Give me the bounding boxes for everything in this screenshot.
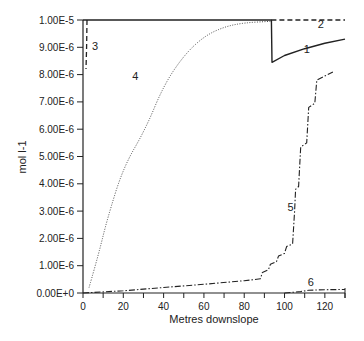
x-tick-label: 120 [317,301,334,312]
curve-label-2: 2 [318,18,324,30]
y-tick-label: 6.00E-6 [39,124,74,135]
y-tick-labels: 0.00E+01.00E-62.00E-63.00E-64.00E-65.00E… [36,15,74,299]
series-lines [83,20,345,293]
curve-label-1: 1 [304,43,310,55]
x-tick-label: 100 [276,301,293,312]
axes [77,20,345,298]
y-tick-label: 5.00E-6 [39,151,74,162]
series-line-3 [86,20,87,69]
curve-label-3: 3 [92,40,98,52]
curve-label-5: 5 [288,201,294,213]
y-tick-label: 2.00E-6 [39,233,74,244]
y-tick-label: 8.00E-6 [39,69,74,80]
y-tick-label: 0.00E+0 [36,288,74,299]
x-tick-labels: 020406080100120 [80,301,333,312]
x-axis-title: Metres downslope [169,313,258,325]
y-tick-label: 7.00E-6 [39,96,74,107]
chart: 0.00E+01.00E-62.00E-63.00E-64.00E-65.00E… [0,0,364,341]
series-line-4 [89,21,270,287]
series-line-1 [83,20,345,62]
series-line-5 [83,72,333,293]
x-tick-label: 80 [239,301,251,312]
x-tick-label: 60 [198,301,210,312]
y-tick-label: 1.00E-6 [39,260,74,271]
y-axis-title: mol l-1 [16,140,28,173]
x-tick-label: 20 [118,301,130,312]
y-tick-label: 4.00E-6 [39,178,74,189]
y-tick-label: 3.00E-6 [39,206,74,217]
x-tick-label: 40 [158,301,170,312]
curve-label-6: 6 [308,276,314,288]
y-tick-label: 9.00E-6 [39,42,74,53]
curve-label-4: 4 [132,70,138,82]
y-tick-label: 1.00E-5 [39,15,74,26]
x-tick-label: 0 [80,301,86,312]
curve-labels: 123456 [92,18,324,288]
